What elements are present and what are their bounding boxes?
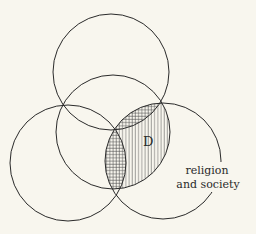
region-top-middle-right-crosshatch (0, 0, 256, 234)
venn-diagram: D religion and society (0, 0, 256, 234)
region-d-label: D (143, 134, 153, 149)
right-circle-label-line2: and society (176, 178, 240, 191)
right-circle-label-line1: religion (185, 164, 228, 177)
